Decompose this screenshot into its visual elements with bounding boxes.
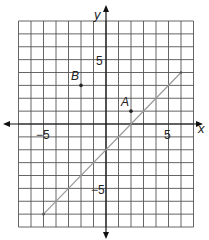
y-tick-label-5: 5 (96, 54, 103, 68)
line-endpoint (180, 71, 183, 74)
point-label-b: B (71, 69, 79, 83)
point-label-a: A (120, 95, 129, 109)
point-b (79, 84, 83, 88)
x-tick-label-neg5: −5 (36, 128, 50, 142)
coordinate-plane: AB y x −5 5 5 −5 (0, 0, 209, 240)
y-axis-up-arrow-icon (103, 5, 109, 12)
plotted-line (42, 71, 182, 215)
line-segment (44, 73, 182, 215)
plotted-points: AB (71, 69, 133, 113)
y-tick-label-neg5: −5 (91, 183, 105, 197)
y-axis-down-arrow-icon (103, 232, 109, 239)
x-axis-label: x (197, 121, 205, 136)
x-tick-label-5: 5 (164, 128, 171, 142)
x-axis-left-arrow-icon (3, 121, 10, 127)
axes (3, 5, 203, 239)
y-axis-label: y (93, 7, 102, 22)
point-a (129, 109, 133, 113)
line-endpoint (42, 213, 45, 216)
